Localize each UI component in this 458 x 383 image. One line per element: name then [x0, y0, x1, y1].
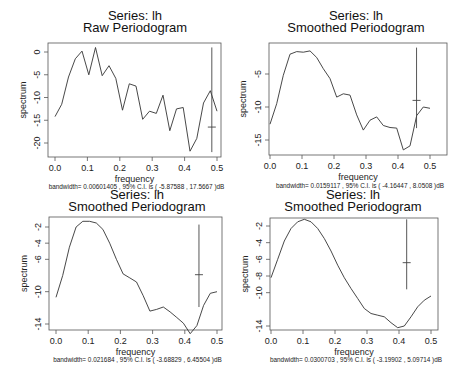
- y-tick-label: -5: [32, 71, 42, 79]
- y-tick-label: 0: [32, 49, 42, 54]
- chart-title: Smoothed Periodogram: [68, 199, 205, 214]
- spectrum-line: [270, 51, 430, 150]
- x-tick-label: 0.0: [265, 336, 278, 346]
- x-tick-label: 0.1: [81, 163, 94, 173]
- x-tick-label: 0.3: [146, 336, 159, 346]
- x-tick-label: 0.2: [329, 336, 342, 346]
- x-tick-label: 0.0: [264, 161, 277, 171]
- spectrum-line: [56, 221, 217, 333]
- x-tick-label: 0.2: [328, 161, 341, 171]
- y-tick-label: -10: [253, 100, 263, 113]
- x-tick-label: 0.1: [296, 161, 309, 171]
- x-tick-label: 0.5: [211, 336, 224, 346]
- x-tick-label: 0.5: [211, 163, 224, 173]
- y-axis-label: spectrum: [240, 255, 250, 292]
- x-tick-label: 0.4: [393, 336, 406, 346]
- periodogram-figure: Series: lhRaw Periodogram0.00.10.20.30.4…: [0, 0, 458, 383]
- y-tick-label: -5: [253, 70, 263, 78]
- y-tick-label: -6: [254, 255, 264, 263]
- y-tick-label: -2: [254, 222, 264, 230]
- y-tick-label: -4: [254, 239, 264, 247]
- y-tick-label: -15: [32, 114, 42, 127]
- bandwidth-footnote: bandwidth= 0.021684 , 95% C.I. is ( -3.6…: [53, 356, 222, 364]
- y-tick-label: -20: [32, 136, 42, 149]
- y-axis-label: spectrum: [238, 80, 248, 117]
- x-tick-label: 0.1: [297, 336, 310, 346]
- y-tick-label: -2: [33, 223, 43, 231]
- plot-area: [49, 217, 222, 330]
- bandwidth-footnote: bandwidth= 0.0300703 , 95% C.I. is ( -3.…: [270, 356, 442, 364]
- chart-title: Smoothed Periodogram: [287, 20, 424, 35]
- y-tick-label: -10: [254, 286, 264, 299]
- x-tick-label: 0.3: [360, 161, 373, 171]
- x-tick-label: 0.2: [114, 336, 127, 346]
- x-tick-label: 0.4: [392, 161, 405, 171]
- x-tick-label: 0.3: [361, 336, 374, 346]
- x-tick-label: 0.3: [146, 163, 159, 173]
- y-tick-label: -15: [253, 133, 263, 146]
- panel-1: Series: lhRaw Periodogram0.00.10.20.30.4…: [18, 8, 224, 191]
- x-tick-label: 0.5: [424, 161, 437, 171]
- x-tick-label: 0.4: [178, 163, 191, 173]
- chart-title: Smoothed Periodogram: [284, 199, 421, 214]
- panel-4: Series: lhSmoothed Periodogram0.00.10.20…: [240, 187, 442, 364]
- x-tick-label: 0.0: [49, 163, 62, 173]
- y-axis-label: spectrum: [19, 255, 29, 292]
- plot-area: [269, 43, 447, 155]
- y-tick-label: -8: [254, 272, 264, 280]
- x-tick-label: 0.2: [114, 163, 127, 173]
- y-tick-label: -14: [33, 317, 43, 330]
- x-axis-label: frequency: [338, 172, 378, 182]
- y-axis-label: spectrum: [18, 81, 28, 118]
- x-tick-label: 0.4: [179, 336, 192, 346]
- x-tick-label: 0.0: [50, 336, 63, 346]
- x-tick-label: 0.1: [82, 336, 95, 346]
- spectrum-line: [55, 48, 217, 152]
- plot-area: [48, 43, 221, 157]
- y-tick-label: -10: [32, 91, 42, 104]
- y-tick-label: -6: [33, 255, 43, 263]
- x-tick-label: 0.5: [425, 336, 438, 346]
- chart-title: Raw Periodogram: [83, 20, 187, 35]
- y-tick-label: -10: [33, 285, 43, 298]
- plot-area: [270, 218, 438, 330]
- y-tick-label: -4: [33, 239, 43, 247]
- panel-3: Series: lhSmoothed Periodogram0.00.10.20…: [19, 187, 223, 364]
- panel-2: Series: lhSmoothed Periodogram0.00.10.20…: [238, 8, 447, 190]
- y-tick-label: -14: [254, 319, 264, 332]
